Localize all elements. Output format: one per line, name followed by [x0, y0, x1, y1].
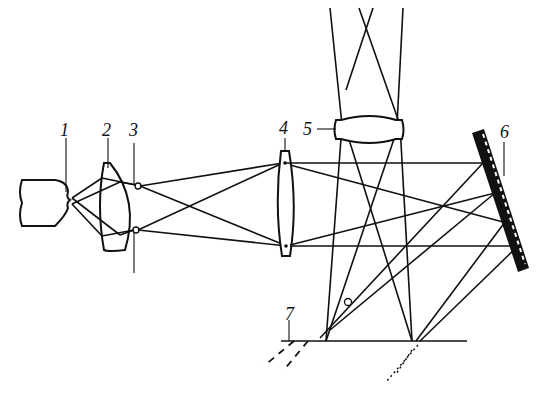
vertical-beams	[326, 8, 412, 341]
collimator-lens	[278, 138, 294, 256]
label-7: 7	[285, 304, 295, 324]
slit-diaphragm	[133, 143, 141, 273]
collimated-rays	[286, 163, 518, 246]
label-4: 4	[279, 118, 288, 138]
optical-diagram: 1 2 3 4 5 6 7	[0, 0, 553, 398]
label-2: 2	[102, 120, 111, 140]
image-plane	[264, 299, 467, 383]
label-5: 5	[303, 119, 312, 139]
diffracted-rays	[320, 163, 518, 341]
label-6: 6	[500, 122, 509, 142]
diffraction-grating	[472, 129, 529, 272]
objective-lens	[317, 116, 404, 143]
slit-to-collimator-rays	[138, 163, 287, 246]
light-source	[20, 138, 70, 226]
label-1: 1	[60, 120, 69, 140]
label-3: 3	[128, 120, 138, 140]
